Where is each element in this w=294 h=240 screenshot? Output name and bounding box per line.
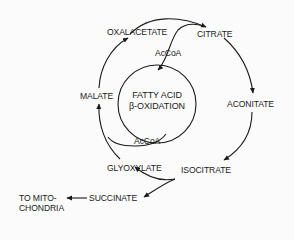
node-glyoxylate: GLYOXYLATE xyxy=(107,163,162,173)
node-mitochondria-line2: CHONDRIA xyxy=(19,203,64,213)
node-acetyl-coa-bottom: AcCoA xyxy=(134,136,160,146)
node-malate: MALATE xyxy=(80,91,113,101)
center-label-line2: β-OXIDATION xyxy=(118,101,196,111)
node-isocitrate: ISOCITRATE xyxy=(181,165,231,175)
node-oxalacetate: OXALACETATE xyxy=(107,27,167,37)
node-aconitate: ACONITATE xyxy=(227,99,274,109)
node-succinate: SUCCINATE xyxy=(89,193,137,203)
node-acetyl-coa-top: AcCoA xyxy=(155,48,181,58)
node-mitochondria-line1: TO MITO- xyxy=(19,193,57,203)
center-label-line1: FATTY ACID xyxy=(118,90,196,100)
node-citrate: CITRATE xyxy=(197,29,232,39)
